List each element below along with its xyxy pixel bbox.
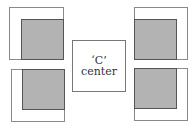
shaded-region	[134, 19, 177, 60]
box-bottom-right	[134, 68, 188, 121]
shaded-region	[22, 69, 65, 110]
box-bottom-left	[11, 69, 65, 122]
shaded-region	[134, 68, 177, 109]
center-label-word: center	[81, 66, 117, 77]
center-box: ‘C’ center	[72, 40, 126, 92]
box-top-left	[9, 7, 64, 60]
box-top-right	[134, 7, 188, 60]
shaded-region	[21, 19, 64, 60]
